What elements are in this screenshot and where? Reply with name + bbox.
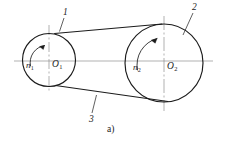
driver-center-base: O bbox=[52, 59, 59, 69]
driven-center-label: O2 bbox=[167, 62, 177, 72]
driven-speed-subscript: 2 bbox=[138, 67, 141, 73]
driven-speed-base: n bbox=[133, 62, 138, 72]
callout-3-leader bbox=[92, 95, 97, 113]
belt-drive-diagram bbox=[0, 0, 228, 142]
driven-rotation-arrowhead bbox=[151, 39, 157, 44]
callout-label-2: 2 bbox=[192, 3, 197, 13]
driven-center-base: O bbox=[167, 61, 174, 71]
callout-1-leader bbox=[60, 18, 65, 32]
driver-rotation-arrowhead bbox=[40, 46, 45, 50]
driver-speed-label: n1 bbox=[26, 61, 34, 71]
driver-center-label: O1 bbox=[52, 60, 62, 70]
belt-lower-tangent bbox=[56, 86, 169, 102]
callout-label-1: 1 bbox=[63, 8, 68, 18]
driver-speed-base: n bbox=[26, 60, 31, 70]
driver-speed-subscript: 1 bbox=[31, 65, 34, 71]
driven-speed-label: n2 bbox=[133, 63, 141, 73]
driven-center-subscript: 2 bbox=[174, 65, 177, 72]
belt-drive-figure: n1 O1 n2 O2 1 2 3 a) bbox=[0, 0, 228, 142]
callout-label-3: 3 bbox=[89, 115, 94, 125]
driver-center-subscript: 1 bbox=[59, 63, 62, 70]
figure-caption: a) bbox=[107, 125, 114, 135]
